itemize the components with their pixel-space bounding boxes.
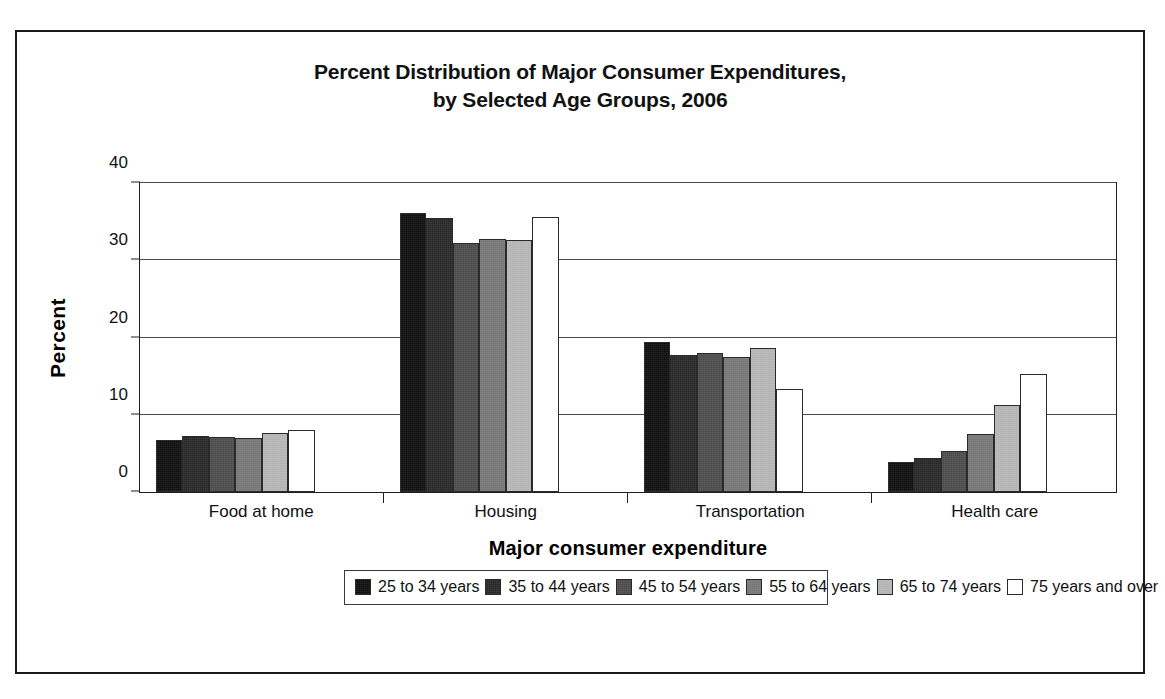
y-tick-label: 0: [119, 462, 140, 482]
bar-group: [872, 183, 1116, 492]
legend-swatch-icon: [355, 579, 371, 595]
legend-item[interactable]: 45 to 54 years: [616, 578, 740, 596]
legend-swatch-icon: [1007, 579, 1023, 595]
bar[interactable]: [750, 348, 776, 492]
bar-groups: [140, 183, 1116, 492]
legend-item[interactable]: 25 to 34 years: [355, 578, 479, 596]
bar-group-bars: [140, 183, 384, 492]
bar-group: [384, 183, 628, 492]
bar[interactable]: [532, 217, 558, 492]
y-tick-label: 30: [109, 230, 140, 250]
chart-title: Percent Distribution of Major Consumer E…: [17, 58, 1143, 114]
legend-item-label: 55 to 64 years: [769, 578, 870, 596]
bar[interactable]: [670, 355, 696, 493]
y-tick-label: 20: [109, 308, 140, 328]
legend-item-label: 45 to 54 years: [639, 578, 740, 596]
y-axis-label-text: Percent: [46, 298, 70, 378]
legend-item-label: 35 to 44 years: [508, 578, 609, 596]
legend-swatch-icon: [485, 579, 501, 595]
bar[interactable]: [288, 430, 314, 492]
bar[interactable]: [697, 353, 723, 492]
bar-group-bars: [872, 183, 1116, 492]
bar[interactable]: [453, 243, 479, 492]
bar[interactable]: [400, 213, 426, 492]
x-tick-label: Housing: [384, 502, 629, 522]
bar[interactable]: [262, 433, 288, 492]
bar-group: [628, 183, 872, 492]
bar[interactable]: [235, 438, 261, 492]
legend-swatch-icon: [746, 579, 762, 595]
legend-item-label: 25 to 34 years: [378, 578, 479, 596]
chart-title-line-1: Percent Distribution of Major Consumer E…: [17, 58, 1143, 86]
bar[interactable]: [914, 458, 940, 492]
bar[interactable]: [723, 357, 749, 492]
y-tick-mark: [131, 259, 140, 260]
legend-swatch-icon: [877, 579, 893, 595]
bar[interactable]: [426, 218, 452, 492]
legend-item-label: 75 years and over: [1030, 578, 1158, 596]
x-axis-label: Major consumer expenditure: [139, 537, 1117, 560]
chart-title-line-2: by Selected Age Groups, 2006: [17, 86, 1143, 114]
legend-item[interactable]: 35 to 44 years: [485, 578, 609, 596]
bar-group: [140, 183, 384, 492]
bar[interactable]: [479, 239, 505, 492]
x-tick-label: Transportation: [628, 502, 873, 522]
bar[interactable]: [776, 389, 802, 493]
legend-item[interactable]: 75 years and over: [1007, 578, 1158, 596]
bar[interactable]: [506, 240, 532, 492]
x-tick-label: Health care: [873, 502, 1118, 522]
chart-legend: 25 to 34 years35 to 44 years45 to 54 yea…: [344, 570, 828, 605]
bar[interactable]: [1020, 374, 1046, 492]
bar[interactable]: [209, 437, 235, 492]
plot-area: 010203040: [139, 182, 1117, 493]
bar[interactable]: [644, 342, 670, 492]
legend-item-label: 65 to 74 years: [900, 578, 1001, 596]
bar[interactable]: [182, 436, 208, 492]
y-tick-mark: [131, 336, 140, 337]
y-tick-mark: [131, 413, 140, 414]
y-axis-label: Percent: [45, 182, 71, 493]
legend-item[interactable]: 65 to 74 years: [877, 578, 1001, 596]
bar[interactable]: [967, 434, 993, 492]
bar-group-bars: [628, 183, 872, 492]
figure-frame: Percent Distribution of Major Consumer E…: [15, 30, 1145, 674]
bar-group-bars: [384, 183, 628, 492]
y-tick-mark: [131, 182, 140, 183]
y-tick-label: 10: [109, 385, 140, 405]
x-tick-label: Food at home: [139, 502, 384, 522]
y-tick-label: 40: [109, 153, 140, 173]
bar[interactable]: [994, 405, 1020, 492]
x-axis-tick-labels: Food at homeHousingTransportationHealth …: [139, 502, 1117, 522]
bar[interactable]: [888, 462, 914, 492]
legend-swatch-icon: [616, 579, 632, 595]
bar[interactable]: [156, 440, 182, 492]
legend-item[interactable]: 55 to 64 years: [746, 578, 870, 596]
bar[interactable]: [941, 451, 967, 492]
y-tick-mark: [131, 491, 140, 492]
